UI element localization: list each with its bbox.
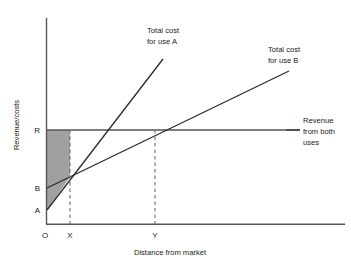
shaded-region-economic-rent: [47, 130, 70, 210]
x-axis-title: Distance from market: [134, 248, 207, 257]
annotation-revenue-line1: Revenue: [303, 116, 333, 125]
y-tick-label-a: A: [35, 206, 41, 215]
x-origin-label: O: [42, 231, 48, 240]
x-tick-label-x: X: [67, 231, 73, 240]
annotation-revenue-line2: from both: [303, 127, 335, 136]
annotation-total-cost-a-line1: Total cost: [147, 26, 180, 35]
y-axis-title: Revenue/costs: [12, 100, 21, 150]
y-tick-label-r: R: [34, 126, 40, 135]
annotation-total-cost-a-line2: for use A: [147, 37, 178, 46]
y-tick-label-b: B: [35, 184, 40, 193]
annotation-total-cost-b-line2: for use B: [268, 56, 298, 65]
annotation-revenue-line3: uses: [303, 138, 319, 147]
figure-root: R B A O X Y Distance from market Revenue…: [0, 0, 351, 268]
x-tick-label-y: Y: [152, 231, 158, 240]
annotation-total-cost-b-line1: Total cost: [268, 45, 301, 54]
revenue-cost-diagram: R B A O X Y Distance from market Revenue…: [0, 0, 351, 268]
